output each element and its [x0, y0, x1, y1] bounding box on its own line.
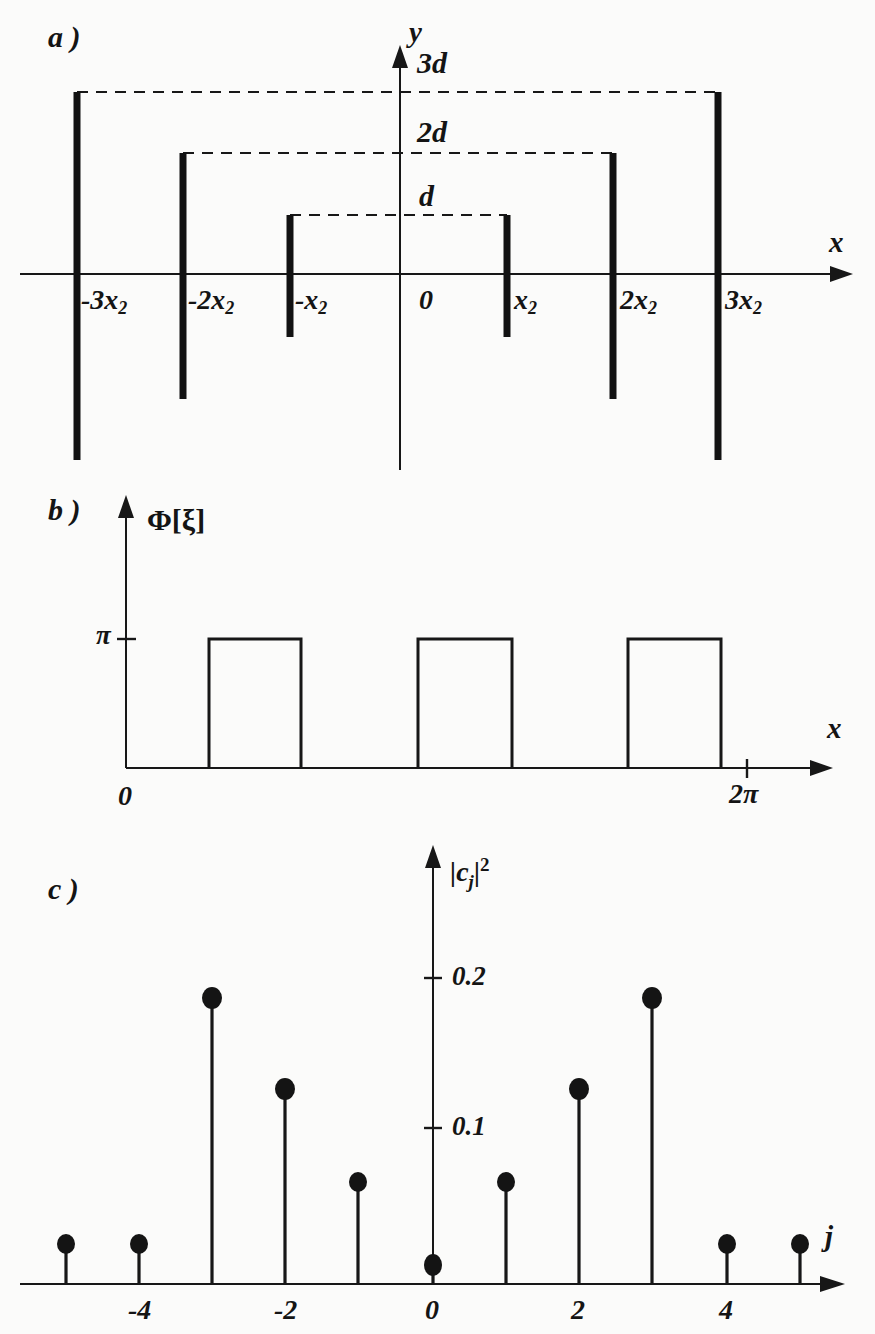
stem-j-0	[424, 1254, 442, 1284]
panel-b-y-axis	[118, 495, 134, 768]
stem-j-2	[569, 1078, 589, 1284]
xtick-3x2: 3x2	[725, 286, 762, 317]
level-label-2d: 2d	[417, 117, 447, 147]
panel-b-xtick-label-2pi: 2π	[729, 780, 758, 808]
panel-a-x-axis	[20, 266, 853, 282]
stem-j-minus-5	[57, 1234, 75, 1284]
stem-j-minus-4	[130, 1234, 148, 1284]
panel-c-xtick-label-0: 0	[425, 1296, 439, 1324]
stem-j-minus-2	[275, 1078, 295, 1284]
panel-c-graphic	[0, 810, 875, 1334]
panel-c-xtick-label-4: 4	[719, 1296, 733, 1324]
panel-a-x-axis-label: x	[829, 228, 844, 257]
figure-container: a ) y x 3d 2d d -3x2 -2x2 -x2 0 x2 2x2 3…	[0, 0, 875, 1334]
panel-c-y-axis	[425, 845, 441, 1284]
xtick-minus-3x2: -3x2	[81, 286, 127, 317]
panel-c-ytick-label-0.2: 0.2	[452, 963, 486, 990]
stem-j-5	[791, 1234, 809, 1284]
stem-j-4	[718, 1234, 736, 1284]
panel-c-ytick-label-0.1: 0.1	[452, 1113, 486, 1140]
panel-b-xtick-label-0: 0	[118, 782, 132, 810]
panel-c-x-axis-label: j	[825, 1222, 833, 1251]
panel-b-label: b )	[48, 495, 81, 525]
level-label-3d: 3d	[417, 48, 447, 78]
panel-c-label: c )	[48, 874, 79, 904]
xtick-2x2: 2x2	[620, 286, 657, 317]
xtick-origin: 0	[419, 286, 433, 314]
panel-c-y-axis-label: |cj|2	[450, 855, 490, 891]
panel-a-y-axis-label: y	[409, 18, 422, 47]
xtick-minus-x2: -x2	[295, 286, 327, 317]
pulse-1	[209, 639, 301, 768]
stem-j-3	[642, 987, 662, 1284]
panel-a-y-axis	[392, 45, 408, 470]
stem-j-minus-1	[349, 1172, 367, 1284]
panel-b-x-axis	[126, 760, 833, 776]
stem-j-1	[497, 1172, 515, 1284]
panel-c-xtick-label-minus-4: -4	[128, 1296, 151, 1324]
panel-b-x-axis-label: x	[827, 714, 842, 743]
panel-c-xtick-label-2: 2	[571, 1296, 585, 1324]
xtick-x2: x2	[514, 286, 537, 317]
pulse-3	[628, 639, 721, 768]
pulse-2	[418, 639, 512, 768]
panel-b-y-axis-label: Φ[ξ]	[147, 505, 205, 535]
panel-b-graphic	[0, 480, 875, 810]
panel-b-ytick-label-pi: π	[96, 622, 111, 649]
xtick-minus-2x2: -2x2	[188, 286, 234, 317]
panel-a-label: a )	[48, 22, 81, 52]
panel-c-xtick-label-minus-2: -2	[274, 1296, 297, 1324]
stem-j-minus-3	[202, 987, 222, 1284]
level-label-d: d	[419, 181, 434, 211]
